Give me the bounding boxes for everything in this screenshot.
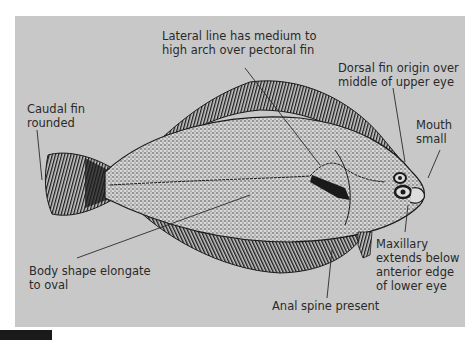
pelvic-fin bbox=[358, 232, 372, 258]
label-anal-spine: Anal spine present bbox=[272, 299, 379, 313]
label-caudal-fin: Caudal fin rounded bbox=[27, 102, 85, 130]
label-maxillary: Maxillary extends below anterior edge of… bbox=[376, 237, 460, 293]
label-lateral-line: Lateral line has medium to high arch ove… bbox=[162, 29, 317, 57]
mouth bbox=[410, 188, 424, 204]
label-mouth: Mouth small bbox=[416, 118, 452, 146]
leader-dorsal-fin bbox=[393, 88, 405, 162]
label-body-shape: Body shape elongate to oval bbox=[29, 264, 151, 292]
label-dorsal-fin: Dorsal fin origin over middle of upper e… bbox=[338, 61, 459, 89]
leader-mouth bbox=[428, 150, 440, 178]
leader-caudal-fin bbox=[37, 130, 42, 180]
